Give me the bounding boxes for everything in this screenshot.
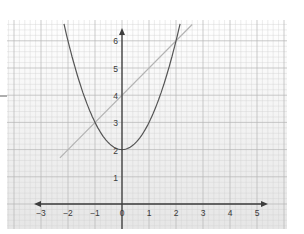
y-tick-label: 2 — [113, 146, 118, 156]
x-tick-label: 1 — [147, 208, 152, 218]
y-tick-label: 5 — [113, 64, 118, 74]
x-tick-label: 4 — [228, 208, 233, 218]
y-tick-label: 6 — [113, 36, 118, 46]
x-tick-label: −1 — [90, 208, 100, 218]
graph-paper — [7, 20, 287, 229]
x-tick-label: −3 — [36, 208, 46, 218]
y-tick-label: 4 — [113, 91, 118, 101]
coordinate-plane: −3 −2 −1 0 1 2 3 4 5 1 2 3 4 5 6 — [0, 0, 304, 234]
x-tick-label: −2 — [63, 208, 73, 218]
x-tick-label: 3 — [201, 208, 206, 218]
x-tick-label: 2 — [174, 208, 179, 218]
y-tick-label: 3 — [113, 118, 118, 128]
graph-figure: −3 −2 −1 0 1 2 3 4 5 1 2 3 4 5 6 — [0, 0, 304, 234]
y-tick-label: 1 — [113, 173, 118, 183]
x-tick-label: 5 — [255, 208, 260, 218]
x-tick-label: 0 — [120, 208, 125, 218]
